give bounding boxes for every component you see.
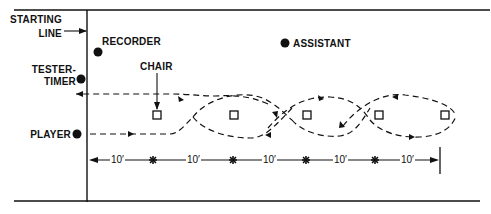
distance-label-4: 10′: [333, 154, 348, 165]
starting-line-label-line2: LINE: [6, 28, 62, 39]
tester-timer-label-line1: TESTER-: [10, 64, 76, 75]
course-diagram: [0, 0, 491, 214]
distance-label-1: 10′: [110, 154, 125, 165]
starting-line-label: STARTING LINE: [6, 14, 62, 39]
chair-4: [375, 111, 383, 119]
chair-5: [441, 111, 449, 119]
marker-4: [371, 156, 379, 164]
tester-timer-label: TESTER- TIMER: [10, 64, 76, 87]
assistant-label: ASSISTANT: [293, 38, 351, 49]
chair-label: CHAIR: [140, 61, 173, 72]
measurement-start-arrow: [89, 157, 98, 163]
starting-line-label-line1: STARTING: [6, 14, 62, 25]
chair-3: [303, 111, 311, 119]
chair-1: [153, 111, 161, 119]
player-label: PLAYER: [20, 129, 71, 140]
marker-2: [229, 156, 237, 164]
path-direction-arrows: [76, 91, 415, 140]
recorder-dot: [94, 48, 103, 57]
marker-3: [302, 156, 310, 164]
distance-label-5: 10′: [400, 154, 415, 165]
distance-label-2: 10′: [186, 154, 201, 165]
dashed-path: [76, 94, 456, 138]
marker-1: [149, 156, 157, 164]
chair-2: [230, 111, 238, 119]
measurement-end-arrow: [430, 157, 439, 163]
tester-timer-label-line2: TIMER: [10, 76, 76, 87]
tester-timer-dot: [77, 75, 86, 84]
assistant-dot: [281, 39, 290, 48]
chairs: [153, 111, 449, 119]
distance-label-3: 10′: [262, 154, 277, 165]
player-dot: [73, 130, 82, 139]
recorder-label: RECORDER: [102, 36, 161, 47]
